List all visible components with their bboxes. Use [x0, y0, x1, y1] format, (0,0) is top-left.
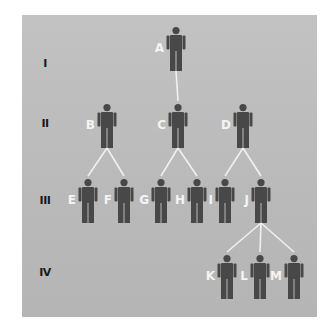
person-icon-j [250, 179, 272, 223]
connection-d-i [225, 148, 243, 176]
person-icon-e [77, 179, 99, 223]
person-label-c: C [157, 118, 166, 132]
person-icon-b [96, 104, 118, 148]
person-label-d: D [221, 118, 231, 132]
generation-label-ii: II [41, 117, 48, 130]
connection-j-l [260, 223, 261, 252]
person-label-b: B [86, 118, 95, 132]
person-label-i: I [209, 193, 213, 207]
person-label-a: A [155, 41, 164, 55]
person-icon-f [113, 179, 135, 223]
person-icon-i [214, 179, 236, 223]
person-label-j: J [245, 193, 249, 207]
person-icon-g [150, 179, 172, 223]
person-icon-d [232, 104, 254, 148]
person-label-e: E [68, 193, 76, 207]
connection-b-f [107, 148, 124, 176]
person-label-l: L [240, 269, 248, 283]
person-label-g: G [139, 193, 149, 207]
person-icon-a [165, 27, 187, 71]
person-label-f: F [104, 193, 112, 207]
connection-d-j [243, 148, 261, 176]
generation-label-iii: III [40, 194, 51, 207]
person-icon-l [249, 255, 271, 299]
person-icon-m [283, 255, 305, 299]
connection-j-m [261, 223, 294, 252]
person-label-k: K [206, 269, 215, 283]
person-icon-c [167, 104, 189, 148]
generation-label-iv: IV [39, 266, 51, 279]
person-label-m: M [270, 269, 282, 283]
connection-a-c [176, 71, 178, 101]
generation-label-i: I [43, 57, 47, 70]
person-icon-h [186, 179, 208, 223]
person-label-h: H [175, 193, 185, 207]
connection-c-g [161, 148, 178, 176]
connection-c-h [178, 148, 197, 176]
connection-b-e [88, 148, 107, 176]
person-icon-k [216, 255, 238, 299]
connection-j-k [227, 223, 261, 252]
